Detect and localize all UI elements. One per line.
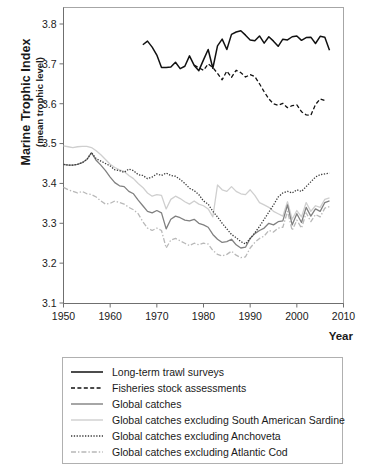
legend-swatch-solid-icon <box>70 366 104 378</box>
legend-label: Global catches <box>112 398 181 410</box>
chart-legend: Long-term trawl surveysFisheries stock a… <box>62 357 343 464</box>
svg-text:1960: 1960 <box>98 310 122 322</box>
x-axis-title: Year <box>329 330 353 342</box>
series-line <box>64 187 330 257</box>
series-line <box>64 153 330 248</box>
series-line <box>143 31 330 71</box>
legend-swatch-solid-icon <box>70 398 104 410</box>
legend-item[interactable]: Global catches excluding South American … <box>63 412 342 428</box>
series-line <box>194 64 325 115</box>
legend-swatch-solid-icon <box>70 414 104 426</box>
legend-label: Global catches excluding Anchoveta <box>112 430 281 442</box>
legend-item[interactable]: Global catches excluding Atlantic Cod <box>63 444 342 460</box>
legend-label: Long-term trawl surveys <box>112 366 224 378</box>
svg-text:2000: 2000 <box>285 310 309 322</box>
legend-label: Fisheries stock assessments <box>112 382 246 394</box>
svg-text:1990: 1990 <box>238 310 262 322</box>
legend-swatch-dotted-icon <box>70 430 104 442</box>
svg-text:3.5: 3.5 <box>42 137 57 149</box>
svg-text:3.4: 3.4 <box>42 177 57 189</box>
svg-text:3.8: 3.8 <box>42 18 57 30</box>
svg-text:1950: 1950 <box>52 310 76 322</box>
chart-plot-area: 3.83.73.63.53.43.33.23.11950196019701980… <box>0 0 365 350</box>
legend-label: Global catches excluding South American … <box>112 414 345 426</box>
legend-item[interactable]: Long-term trawl surveys <box>63 364 342 380</box>
legend-item[interactable]: Global catches <box>63 396 342 412</box>
svg-text:3.6: 3.6 <box>42 98 57 110</box>
svg-text:3.2: 3.2 <box>42 257 57 269</box>
legend-item[interactable]: Fisheries stock assessments <box>63 380 342 396</box>
svg-text:3.1: 3.1 <box>42 297 57 309</box>
series-line <box>64 153 330 244</box>
series-line <box>64 146 330 219</box>
legend-swatch-dashed-icon <box>70 382 104 394</box>
legend-label: Global catches excluding Atlantic Cod <box>112 446 288 458</box>
legend-item[interactable]: Global catches excluding Anchoveta <box>63 428 342 444</box>
legend-swatch-dashdot-icon <box>70 446 104 458</box>
svg-text:1980: 1980 <box>192 310 216 322</box>
svg-text:2010: 2010 <box>332 310 356 322</box>
svg-text:3.3: 3.3 <box>42 217 57 229</box>
svg-text:1970: 1970 <box>145 310 169 322</box>
svg-text:3.7: 3.7 <box>42 58 57 70</box>
